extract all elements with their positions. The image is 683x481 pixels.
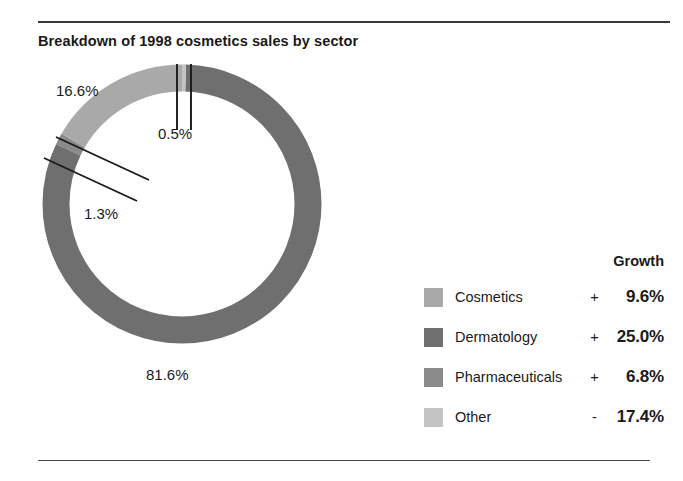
legend-label-other: Other bbox=[455, 409, 588, 425]
slice-label-cosmetics: 16.6% bbox=[56, 82, 99, 99]
swatch-other bbox=[424, 408, 443, 427]
legend-item-dermatology[interactable]: Dermatology + 25.0% bbox=[424, 317, 664, 357]
bottom-divider-rule bbox=[38, 460, 650, 461]
legend-value-dermatology: 25.0% bbox=[601, 327, 664, 347]
legend-item-pharmaceuticals[interactable]: Pharmaceuticals + 6.8% bbox=[424, 357, 664, 397]
top-divider-rule bbox=[38, 21, 670, 23]
slice-label-dermatology: 81.6% bbox=[146, 366, 189, 383]
legend-label-pharmaceuticals: Pharmaceuticals bbox=[455, 369, 588, 385]
swatch-cosmetics bbox=[424, 288, 443, 307]
legend-value-pharmaceuticals: 6.8% bbox=[601, 367, 664, 387]
slice-label-pharmaceuticals: 1.3% bbox=[84, 205, 118, 222]
legend-label-dermatology: Dermatology bbox=[455, 329, 588, 345]
page-title: Breakdown of 1998 cosmetics sales by sec… bbox=[38, 33, 358, 49]
legend-sign-pharmaceuticals: + bbox=[588, 369, 601, 385]
legend-label-cosmetics: Cosmetics bbox=[455, 289, 588, 305]
growth-column-header: Growth bbox=[613, 253, 664, 269]
donut-chart bbox=[36, 58, 328, 350]
legend-sign-cosmetics: + bbox=[588, 289, 601, 305]
legend-sign-dermatology: + bbox=[588, 329, 601, 345]
swatch-dermatology bbox=[424, 328, 443, 347]
legend-value-other: 17.4% bbox=[601, 407, 664, 427]
legend-sign-other: - bbox=[588, 409, 601, 425]
legend-item-cosmetics[interactable]: Cosmetics + 9.6% bbox=[424, 277, 664, 317]
swatch-pharmaceuticals bbox=[424, 368, 443, 387]
legend-item-other[interactable]: Other - 17.4% bbox=[424, 397, 664, 437]
slice-label-other: 0.5% bbox=[158, 125, 192, 142]
legend: Growth Cosmetics + 9.6% Dermatology + 25… bbox=[424, 253, 664, 437]
legend-value-cosmetics: 9.6% bbox=[601, 287, 664, 307]
donut-chart-svg bbox=[36, 58, 328, 350]
legend-header: Growth bbox=[424, 253, 664, 277]
